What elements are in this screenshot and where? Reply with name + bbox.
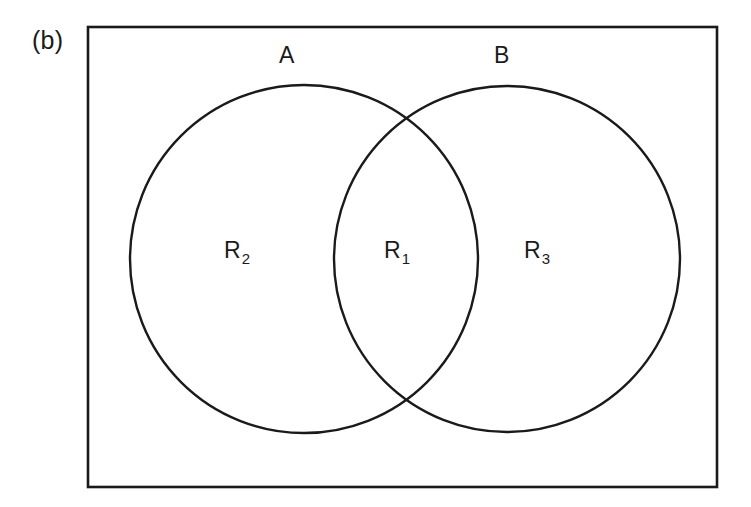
region-r1-label: R1 — [384, 239, 409, 262]
region-r1-base: R — [384, 237, 401, 263]
region-r1-subscript: 1 — [402, 250, 410, 267]
set-a-circle — [130, 85, 478, 433]
set-b-label: B — [494, 44, 509, 67]
panel-label: (b) — [32, 28, 63, 53]
region-r2-subscript: 2 — [242, 250, 250, 267]
venn-diagram-figure: (b) A B R2 R1 R3 — [0, 0, 751, 507]
set-a-label: A — [279, 44, 294, 67]
venn-diagram-canvas — [0, 0, 751, 507]
region-r2-base: R — [224, 237, 241, 263]
region-r2-label: R2 — [224, 239, 249, 262]
region-r3-label: R3 — [524, 239, 549, 262]
region-r3-base: R — [524, 237, 541, 263]
region-r3-subscript: 3 — [542, 250, 550, 267]
